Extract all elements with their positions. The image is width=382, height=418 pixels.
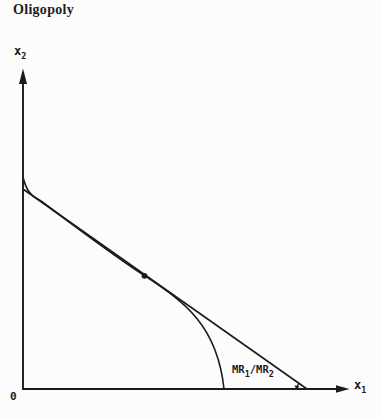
mr-ratio-sub1: 1 <box>245 370 250 379</box>
x-axis-label: x1 <box>354 379 366 391</box>
origin-label: 0 <box>10 391 17 402</box>
mr-ratio-label: MR1/MR2 <box>232 364 274 375</box>
frontier-curve <box>23 177 224 389</box>
x-axis-label-base: x <box>354 378 361 392</box>
y-axis-label: x2 <box>14 45 26 57</box>
mr-ratio-part1: MR <box>232 363 245 375</box>
mr-ratio-part2: MR <box>256 363 269 375</box>
x-axis-label-subscript: 1 <box>361 386 366 395</box>
x-axis-arrowhead-icon <box>336 385 350 392</box>
y-axis-label-subscript: 2 <box>21 52 26 61</box>
y-axis-label-base: x <box>14 44 21 58</box>
figure-canvas: Oligopoly x2 x1 0 MR1/MR2 <box>0 0 382 418</box>
mr-ratio-sub2: 2 <box>269 370 274 379</box>
y-axis-arrowhead-icon <box>19 69 27 85</box>
tangency-point-dot <box>142 273 148 279</box>
oligopoly-diagram <box>0 0 382 418</box>
